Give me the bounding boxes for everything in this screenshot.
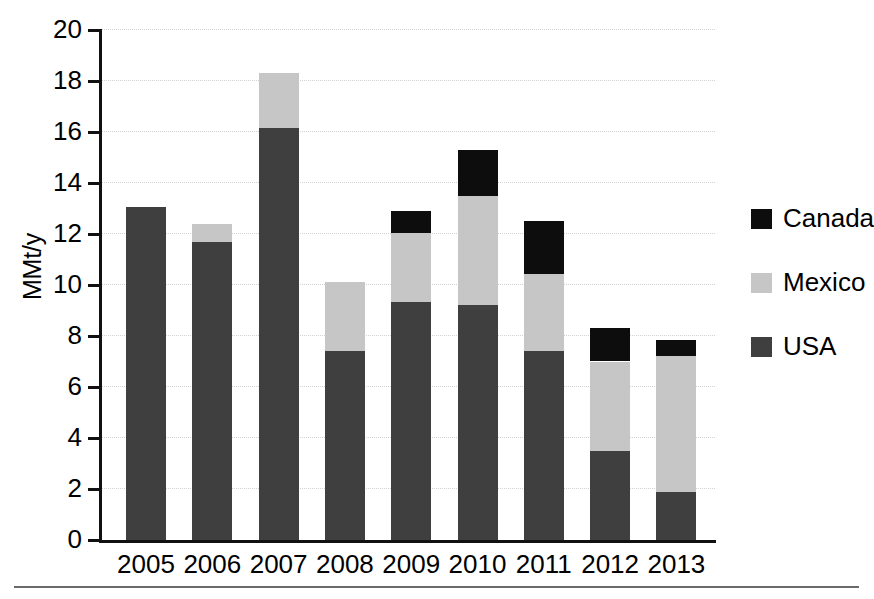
- bar-segment-mexico[interactable]: [656, 356, 696, 491]
- y-axis-tick-label: 4: [18, 424, 82, 450]
- y-axis-tick-label: 18: [18, 67, 82, 93]
- bar-stack[interactable]: [126, 30, 166, 540]
- bar-segment-mexico[interactable]: [458, 196, 498, 306]
- legend-label: USA: [783, 330, 836, 362]
- bar-segment-mexico[interactable]: [192, 224, 232, 242]
- legend-label: Canada: [783, 202, 874, 234]
- y-axis-tick-label: 14: [18, 169, 82, 195]
- footer-divider: [14, 586, 859, 588]
- bar-segment-mexico[interactable]: [391, 233, 431, 302]
- x-axis-line: [99, 540, 716, 543]
- bar-segment-canada[interactable]: [524, 221, 564, 273]
- bar-stack[interactable]: [259, 30, 299, 540]
- bar-segment-usa[interactable]: [391, 302, 431, 540]
- y-axis-tick-label-text: 12: [22, 220, 82, 246]
- bar-segment-usa[interactable]: [259, 128, 299, 540]
- bar-segment-mexico[interactable]: [325, 282, 365, 351]
- bar-segment-canada[interactable]: [656, 340, 696, 357]
- bar-segment-mexico[interactable]: [259, 73, 299, 128]
- y-axis-tick-label-text: 4: [22, 424, 82, 450]
- bar-segment-usa[interactable]: [325, 351, 365, 540]
- legend-swatch-canada: [751, 209, 772, 229]
- bar-stack[interactable]: [325, 30, 365, 540]
- bar-stack[interactable]: [192, 30, 232, 540]
- y-axis-tick-label-text: 0: [22, 526, 82, 552]
- bar-segment-usa[interactable]: [656, 492, 696, 540]
- y-axis-tick-label-text: 20: [22, 16, 82, 42]
- legend-swatch-usa: [751, 337, 772, 357]
- bar-segment-usa[interactable]: [590, 451, 630, 540]
- bar-segment-mexico[interactable]: [590, 362, 630, 451]
- bar-stack[interactable]: [524, 30, 564, 540]
- y-axis-tick-label: 0: [18, 526, 82, 552]
- y-axis-tick-label-text: 18: [22, 67, 82, 93]
- y-axis-line: [99, 29, 102, 543]
- y-axis-tick-label-text: 16: [22, 118, 82, 144]
- legend-swatch-mexico: [751, 273, 772, 293]
- y-axis-tick-label: 12: [18, 220, 82, 246]
- y-axis-tick-label: 20: [18, 16, 82, 42]
- y-axis-tick-label: 10: [18, 271, 82, 297]
- bar-stack[interactable]: [391, 30, 431, 540]
- bar-segment-canada[interactable]: [458, 150, 498, 196]
- y-axis-tick-label: 16: [18, 118, 82, 144]
- bar-stack[interactable]: [590, 30, 630, 540]
- y-axis-tick-label-text: 10: [22, 271, 82, 297]
- bar-segment-usa[interactable]: [524, 351, 564, 540]
- legend-label: Mexico: [783, 266, 865, 298]
- y-axis-tick-label-text: 6: [22, 373, 82, 399]
- bar-segment-canada[interactable]: [391, 211, 431, 233]
- x-axis-tick-label: 2013: [636, 549, 716, 579]
- y-axis-tick-label-text: 8: [22, 322, 82, 348]
- y-axis-tick-label-text: 2: [22, 475, 82, 501]
- bar-stack[interactable]: [458, 30, 498, 540]
- bar-segment-mexico[interactable]: [524, 274, 564, 352]
- y-axis-tick-label: 8: [18, 322, 82, 348]
- bar-segment-usa[interactable]: [458, 305, 498, 540]
- y-axis-tick-label-text: 14: [22, 169, 82, 195]
- y-axis-tick-label: 2: [18, 475, 82, 501]
- bar-segment-usa[interactable]: [192, 242, 232, 540]
- bar-stack[interactable]: [656, 30, 696, 540]
- bar-segment-usa[interactable]: [126, 207, 166, 540]
- bar-segment-canada[interactable]: [590, 328, 630, 361]
- y-axis-tick-label: 6: [18, 373, 82, 399]
